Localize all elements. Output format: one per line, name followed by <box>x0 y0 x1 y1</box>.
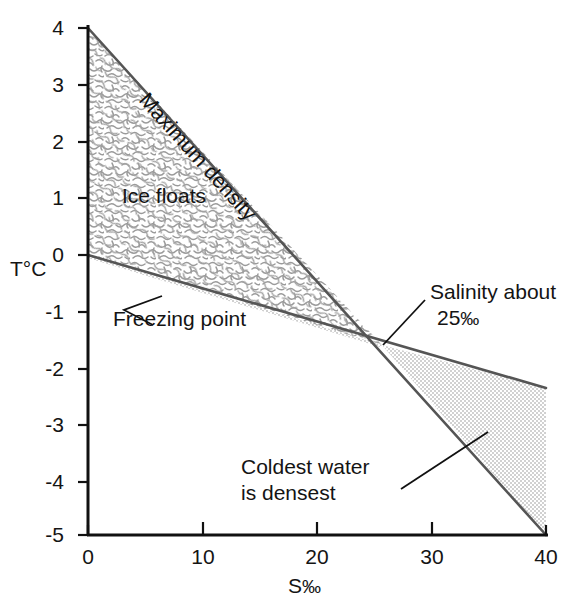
y-tick-label-minus-1: -1 <box>24 300 64 324</box>
salinity-annotation-line1: Salinity about <box>430 280 556 305</box>
y-axis-title: T°C <box>10 257 46 281</box>
y-tick-label-minus-5: -5 <box>24 523 64 547</box>
x-axis-title: S‰ <box>288 574 321 598</box>
coldest-water-line2: is densest <box>241 481 336 506</box>
coldest-water-line1: Coldest water <box>241 455 369 480</box>
x-tick-label-20: 20 <box>297 545 337 569</box>
x-tick-label-10: 10 <box>183 545 223 569</box>
y-tick-label-3: 3 <box>34 73 64 97</box>
salinity-permille: ‰ <box>460 308 479 329</box>
x-tick-label-0: 0 <box>68 545 108 569</box>
y-tick-label-minus-2: -2 <box>24 357 64 381</box>
x-axis-ticks <box>88 522 546 535</box>
y-tick-label-2: 2 <box>34 130 64 154</box>
coldest-water-leader <box>401 432 488 489</box>
y-tick-label-1: 1 <box>34 186 64 210</box>
x-tick-label-40: 40 <box>526 545 566 569</box>
x-tick-label-30: 30 <box>412 545 452 569</box>
y-tick-label-4: 4 <box>34 16 64 40</box>
freezing-point-label: Freezing point <box>113 307 246 332</box>
salinity-leader <box>383 300 425 345</box>
temperature-salinity-diagram: 4 3 2 1 0 -1 -2 -3 -4 -5 0 10 20 30 40 T… <box>0 0 583 612</box>
x-axis-title-permille: ‰ <box>302 576 321 597</box>
salinity-value: 25 <box>437 306 460 329</box>
y-tick-label-minus-3: -3 <box>24 413 64 437</box>
y-tick-label-minus-4: -4 <box>24 470 64 494</box>
chart-canvas <box>0 0 583 612</box>
x-axis-title-letter: S <box>288 574 302 597</box>
salinity-annotation-line2: 25‰ <box>437 306 479 331</box>
ice-floats-label: Ice floats <box>122 184 206 209</box>
